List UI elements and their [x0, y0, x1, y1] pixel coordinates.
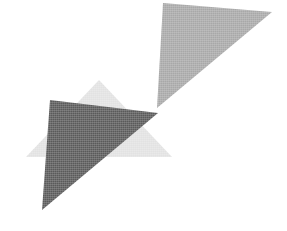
- abstract-triangles-graphic: [0, 0, 287, 231]
- artboard: [0, 0, 287, 231]
